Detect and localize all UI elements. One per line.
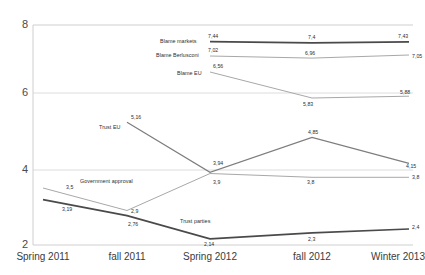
point-label-blame-eu-fall-2012: 5,83 <box>303 101 313 107</box>
line-chart: 8 6 4 2 Spring 2011 fall 2011 Spring 201… <box>0 0 425 275</box>
point-label-blame-berlusconi-spring-2012: 7,02 <box>208 47 218 53</box>
point-label-blame-berlusconi-winter-2013: 7,05 <box>412 53 422 59</box>
y-tick-2: 2 <box>6 238 28 250</box>
point-label-blame-eu-spring-2012: 6,56 <box>213 63 223 69</box>
point-label-government-approval-winter-2013: 3,8 <box>412 174 419 180</box>
x-tick-winter-2013: Winter 2013 <box>371 251 425 262</box>
x-tick-spring-2011: Spring 2011 <box>6 251 80 262</box>
series-label-trust-eu: Trust EU <box>99 124 120 130</box>
point-label-government-approval-fall-2011: 2,9 <box>131 208 138 214</box>
x-tick-fall-2011: fall 2011 <box>92 251 162 262</box>
point-label-blame-markets-fall-2012: 7,4 <box>308 34 315 40</box>
x-tick-spring-2012: Spring 2012 <box>173 251 247 262</box>
point-label-blame-eu-winter-2013: 5,88 <box>400 89 410 95</box>
point-label-trust-eu-fall-2012: 4,85 <box>308 129 318 135</box>
y-tick-6: 6 <box>6 86 28 98</box>
series-line-blame-markets <box>210 42 409 43</box>
point-label-trust-parties-spring-2012: 2,14 <box>204 241 214 247</box>
point-label-trust-parties-fall-2011: 2,76 <box>128 221 138 227</box>
series-label-government-approval: Government approval <box>80 178 133 184</box>
chart-canvas <box>0 0 425 275</box>
point-label-trust-eu-fall-2011: 5,16 <box>131 114 141 120</box>
y-tick-4: 4 <box>6 163 28 175</box>
point-label-trust-parties-fall-2012: 2,3 <box>308 236 315 242</box>
series-line-trust-eu <box>127 122 409 172</box>
series-line-trust-parties <box>43 200 409 239</box>
series-line-blame-eu <box>210 72 409 98</box>
series-label-blame-berlusconi: Blame Berlusconi <box>156 52 199 58</box>
x-tick-fall-2012: fall 2012 <box>277 251 347 262</box>
point-label-trust-parties-winter-2013: 2,4 <box>412 224 419 230</box>
y-tick-8: 8 <box>6 18 28 30</box>
point-label-trust-eu-spring-2012: 3,94 <box>213 160 223 166</box>
point-label-government-approval-fall-2012: 3,8 <box>307 179 314 185</box>
series-label-blame-markets: Blame markets <box>160 38 197 44</box>
series-label-trust-parties: Trust parties <box>180 218 210 224</box>
point-label-blame-berlusconi-fall-2012: 6,96 <box>305 50 315 56</box>
point-label-blame-markets-winter-2013: 7,43 <box>398 33 408 39</box>
point-label-blame-markets-spring-2012: 7,44 <box>208 33 218 39</box>
point-label-government-approval-spring-2012: 3,9 <box>213 179 220 185</box>
point-label-trust-parties-spring-2011: 3,19 <box>62 206 72 212</box>
point-label-government-approval-spring-2011: 3,5 <box>66 184 73 190</box>
series-label-blame-eu: Blame EU <box>177 70 202 76</box>
point-label-trust-eu-winter-2013: 4,15 <box>406 163 416 169</box>
